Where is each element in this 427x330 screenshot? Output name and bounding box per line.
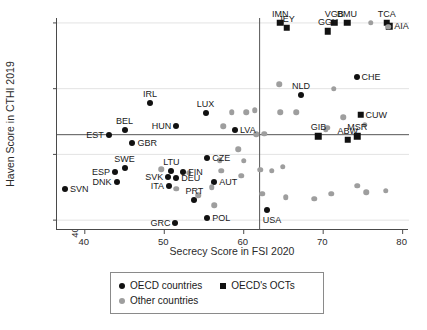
x-tick-label: 80 [387,236,417,247]
point-label-esp: ESP [92,168,110,177]
data-point-jey [283,25,290,32]
data-point [363,189,369,195]
data-point-che [354,74,360,80]
legend-square-black-icon [220,283,226,289]
point-label-svn: SVN [70,184,89,193]
data-point-esp [112,169,118,175]
point-label-dnk: DNK [93,178,112,187]
point-label-aia: AIA [394,22,409,31]
data-point [283,194,289,200]
x-tick-label: 70 [307,236,337,247]
data-point-bmu [344,20,351,27]
data-point [383,188,389,194]
data-point [312,196,318,202]
data-point [229,110,235,116]
data-point-dnk [114,179,120,185]
data-point [212,203,218,209]
point-label-usa: USA [263,216,282,225]
legend-item-other: Other countries [119,295,198,306]
point-label-lux: LUX [197,100,215,109]
data-point [331,86,337,92]
data-point [252,108,258,114]
point-label-tca: TCA [378,9,396,18]
data-point [239,173,245,179]
point-label-nld: NLD [292,82,310,91]
legend-label-oecd: OECD countries [130,280,202,291]
legend-label-oct: OECD's OCTs [231,280,295,291]
data-point [219,168,225,174]
data-point [355,183,361,189]
data-point-grc [172,220,178,226]
data-point-prt [191,197,197,203]
chart-root: Haven Score in CTHI 2019 Secrecy Score i… [0,0,427,330]
data-point [340,115,346,121]
data-point-gib [315,133,322,140]
legend-row-1: OECD countries OECD's OCTs [119,278,315,293]
data-point-abw [345,136,352,143]
point-label-grc: GRC [150,219,170,228]
point-label-ggy: GGY [318,18,338,27]
data-point-svn [62,186,68,192]
point-label-hun: HUN [152,122,172,131]
data-point [328,191,334,197]
point-label-jey: JEY [278,14,295,23]
point-label-msr: MSR [347,123,367,132]
data-point-irl [147,100,153,106]
data-point [259,191,265,197]
data-point [386,24,392,30]
data-point [269,168,275,174]
data-point [241,158,247,164]
data-point [280,164,286,170]
point-label-ltu: LTU [163,157,179,166]
data-point [235,147,241,153]
data-point [258,167,264,173]
data-point-ggy [325,28,332,35]
legend-circle-black-icon [119,283,125,289]
data-point [293,110,299,116]
point-label-gib: GIB [311,123,327,132]
point-label-cuw: CUW [366,110,388,119]
point-label-lva: LVA [240,125,256,134]
data-point-cze [204,155,210,161]
point-label-est: EST [86,130,104,139]
data-point-ita [166,183,172,189]
data-point-hun [173,123,179,129]
point-label-prt: PRT [186,187,204,196]
point-label-swe: SWE [114,155,135,164]
data-point [368,20,374,26]
point-label-bmu: BMU [337,9,357,18]
point-label-fin: FIN [188,168,203,177]
data-point-lva [232,127,238,133]
x-tick-label: 40 [69,236,99,247]
x-tick-label: 50 [148,236,178,247]
data-point [209,185,215,191]
data-point-cuw [357,112,364,119]
point-label-gbr: GBR [137,138,157,147]
data-point-pol [204,215,210,221]
y-axis-title: Haven Score in CTHI 2019 [4,18,18,230]
chart-legend: OECD countries OECD's OCTs Other countri… [110,272,324,314]
data-point-gbr [129,140,135,146]
legend-label-other: Other countries [130,295,198,306]
point-label-cze: CZE [212,153,230,162]
data-point-usa [264,207,270,213]
legend-item-oct: OECD's OCTs [220,280,295,291]
point-label-pol: POL [212,214,230,223]
data-point [243,110,249,116]
data-point-deu [173,175,179,181]
data-point [220,123,226,129]
data-point [278,110,284,116]
data-point-ltu [168,168,174,174]
data-point-bel [122,127,128,133]
data-point [277,82,283,88]
data-point-swe [122,165,128,171]
data-point-svk [165,174,171,180]
data-point [173,186,179,192]
point-label-ita: ITA [151,181,164,190]
data-point-est [106,132,112,138]
legend-row-2: Other countries [119,293,315,308]
point-label-aut: AUT [219,178,237,187]
data-point-nld [298,92,304,98]
data-point [262,131,268,137]
x-tick-label: 60 [228,236,258,247]
